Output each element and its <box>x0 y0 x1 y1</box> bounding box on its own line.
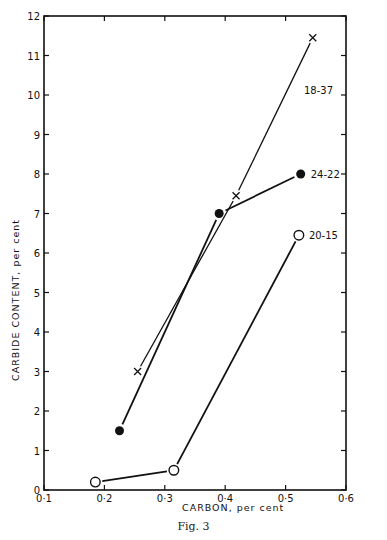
open-circle-marker-icon <box>169 465 179 475</box>
x-marker-icon <box>309 34 316 41</box>
x-marker-icon <box>134 368 141 375</box>
series-18-37: 18-37 <box>134 34 333 375</box>
plot-frame <box>44 16 346 490</box>
x-axis-title: CARBON, per cent <box>182 502 284 513</box>
x-tick-label: 0·6 <box>338 493 354 504</box>
y-tick-label: 10 <box>27 90 40 101</box>
chart: 0123456789101112 0·10·20·30·40·50·6 18-3… <box>0 0 387 540</box>
y-tick-label: 12 <box>27 11 40 22</box>
series-label: 20-15 <box>309 230 338 241</box>
y-axis-ticks: 0123456789101112 <box>27 11 346 496</box>
series-line <box>239 43 310 190</box>
series-line <box>102 471 167 481</box>
open-circle-marker-icon <box>294 230 304 240</box>
y-tick-label: 8 <box>34 169 40 180</box>
filled-circle-marker-icon <box>215 209 224 218</box>
x-marker-icon <box>233 192 240 199</box>
y-tick-label: 2 <box>34 406 40 417</box>
plot-border <box>44 16 346 490</box>
y-tick-label: 1 <box>34 446 40 457</box>
y-tick-label: 11 <box>27 51 40 62</box>
filled-circle-marker-icon <box>115 426 124 435</box>
y-tick-label: 9 <box>34 130 40 141</box>
series-label: 18-37 <box>304 85 333 96</box>
y-tick-label: 7 <box>34 209 40 220</box>
figure-caption: Fig. 3 <box>0 520 387 533</box>
y-axis-title: CARBIDE CONTENT, per cent <box>10 219 21 381</box>
series-24-22: 24-22 <box>115 169 340 435</box>
series-20-15: 20-15 <box>91 230 338 487</box>
series-line <box>177 241 295 464</box>
y-tick-label: 3 <box>34 367 40 378</box>
y-tick-label: 5 <box>34 288 40 299</box>
x-tick-label: 0·1 <box>36 493 52 504</box>
series-label: 24-22 <box>311 169 340 180</box>
open-circle-marker-icon <box>91 477 101 487</box>
filled-circle-marker-icon <box>296 170 305 179</box>
x-tick-label: 0·3 <box>157 493 173 504</box>
y-tick-label: 6 <box>34 248 40 259</box>
x-tick-label: 0·2 <box>96 493 112 504</box>
y-tick-label: 4 <box>34 327 40 338</box>
series-group: 18-3724-2220-15 <box>91 34 340 487</box>
series-line <box>225 177 294 210</box>
series-line <box>122 220 216 425</box>
